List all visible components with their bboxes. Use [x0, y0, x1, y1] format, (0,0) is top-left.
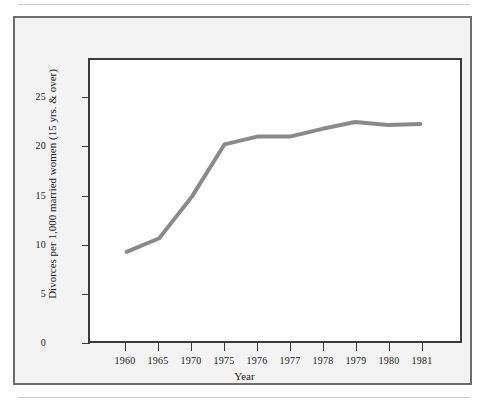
x-axis-title: Year [15, 370, 474, 382]
y-axis-tick-label: 15 [6, 191, 46, 201]
x-axis-tick [422, 343, 423, 351]
y-axis-tick [82, 343, 90, 344]
x-axis-tick [224, 343, 225, 351]
plot-frame [88, 58, 462, 343]
x-axis-tick [356, 343, 357, 351]
x-axis-tick [125, 343, 126, 351]
y-axis-title: Divorces per 1,000 married women (15 yrs… [46, 59, 58, 309]
x-axis-tick-label: 1981 [402, 355, 442, 366]
x-axis-tick [323, 343, 324, 351]
x-axis-tick [389, 343, 390, 351]
y-axis-tick-label: 0 [6, 338, 46, 348]
page-rule-bottom [18, 397, 470, 398]
figure-outer-box: Divorces per 1,000 married women (15 yrs… [13, 16, 472, 385]
y-axis-tick-label: 10 [6, 240, 46, 250]
y-axis-tick-label: 20 [6, 141, 46, 151]
x-axis-tick [158, 343, 159, 351]
figure-page: Divorces per 1,000 married women (15 yrs… [0, 0, 486, 403]
x-axis-tick [290, 343, 291, 351]
divorce-rate-line [127, 122, 421, 252]
page-rule-top [18, 4, 470, 5]
line-series-svg [90, 60, 460, 341]
y-axis-tick-label: 5 [6, 289, 46, 299]
y-axis-tick-label: 25 [6, 92, 46, 102]
x-axis-tick [191, 343, 192, 351]
plot-area [90, 60, 460, 341]
x-axis-tick [257, 343, 258, 351]
